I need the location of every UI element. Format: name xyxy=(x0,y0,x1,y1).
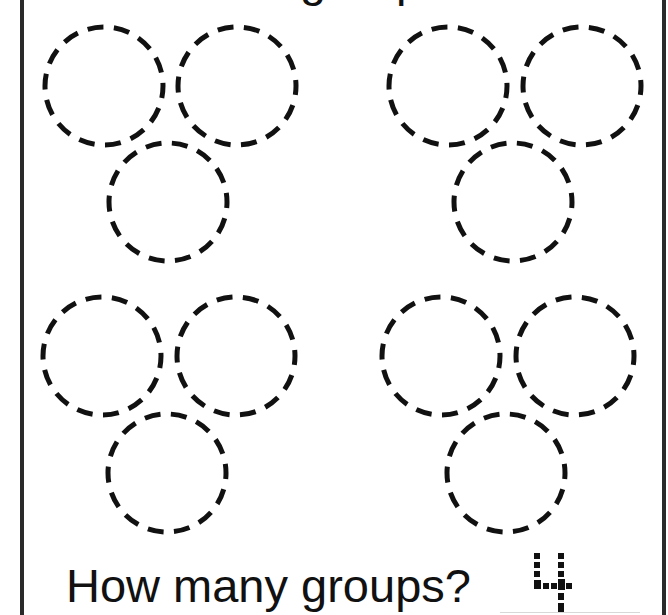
question-text: How many groups? xyxy=(66,562,471,609)
dashed-circle-groups xyxy=(0,0,668,560)
dashed-circle xyxy=(109,143,227,261)
dashed-circle xyxy=(43,297,161,415)
dotted-four-glyph xyxy=(534,553,572,612)
dashed-circle xyxy=(45,27,163,145)
dashed-circle xyxy=(516,297,634,415)
dashed-circle xyxy=(108,414,226,532)
dashed-circle xyxy=(178,27,296,145)
dashed-circle xyxy=(523,27,641,145)
dashed-circle xyxy=(454,143,572,261)
traced-answer-digit: 4 xyxy=(530,550,580,615)
dashed-circle xyxy=(447,414,565,532)
dashed-circle xyxy=(389,27,507,145)
group-2 xyxy=(389,27,641,261)
worksheet-page: groups How many groups? 4 xyxy=(0,0,668,615)
group-1 xyxy=(45,27,296,261)
dashed-circle xyxy=(382,297,500,415)
group-4 xyxy=(382,297,634,532)
dashed-circle xyxy=(177,297,295,415)
group-3 xyxy=(43,297,295,532)
